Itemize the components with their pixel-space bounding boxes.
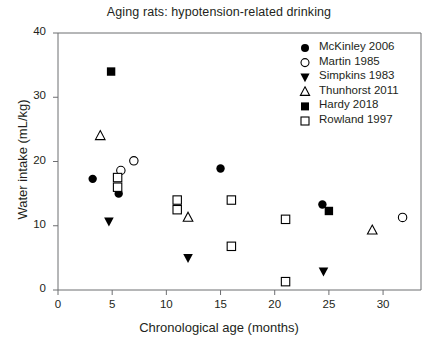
legend-marker [301,44,309,52]
legend-marker [300,87,309,96]
y-tick-label: 20 [18,154,46,166]
legend-label: Rowland 1997 [319,113,393,125]
x-tick-label: 0 [44,298,72,310]
legend-marker [301,117,309,125]
y-tick-label: 10 [18,218,46,230]
data-point [104,217,114,226]
legend-marker [300,74,309,83]
data-point [281,215,289,223]
data-point [319,268,329,277]
legend-label: McKinley 2006 [319,40,394,52]
legend-marker [301,102,309,110]
data-point [88,175,96,183]
legend-label: Simpkins 1983 [319,69,394,81]
y-tick-label: 0 [18,282,46,294]
legend-marker [301,59,309,67]
data-point [183,212,193,221]
data-point [130,157,138,165]
data-point [398,213,406,221]
data-point [325,207,333,215]
x-tick-label: 20 [261,298,289,310]
data-point [216,164,224,172]
data-point [173,205,181,213]
x-tick-label: 15 [207,298,235,310]
data-point [183,254,193,263]
x-axis-label: Chronological age (months) [0,320,438,335]
data-point [281,277,289,285]
data-point [367,225,377,234]
x-tick-label: 30 [369,298,397,310]
data-point [113,173,121,181]
legend-label: Martin 1985 [319,55,380,67]
data-point [227,242,235,250]
data-point [95,131,105,140]
y-tick-label: 30 [18,89,46,101]
scatter-plot-figure: Aging rats: hypotension-related drinking… [0,0,438,346]
data-point [113,183,121,191]
data-point [173,196,181,204]
legend-label: Hardy 2018 [319,98,378,110]
legend-label: Thunhorst 2011 [319,84,399,96]
x-tick-label: 10 [152,298,180,310]
data-point [107,67,115,75]
data-point [227,196,235,204]
y-tick-label: 40 [18,25,46,37]
x-tick-label: 5 [98,298,126,310]
x-tick-label: 25 [315,298,343,310]
